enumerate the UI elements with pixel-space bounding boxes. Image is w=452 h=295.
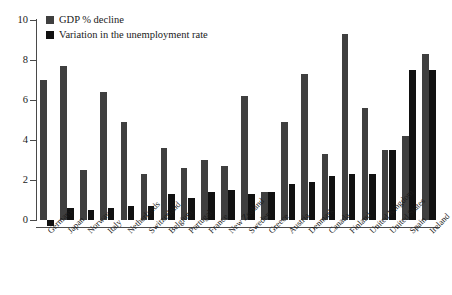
y-axis-tick-label: 4 — [2, 135, 28, 145]
legend-item-gdp: GDP % decline — [46, 13, 208, 26]
y-axis-tick-label: 6 — [2, 95, 28, 105]
bar-gdp-decline — [80, 170, 87, 220]
plot-area — [37, 20, 439, 220]
x-axis-labels: GermanyJapanNorwayItalyNetherlandsSwitze… — [37, 229, 439, 295]
bar-group — [40, 20, 54, 220]
chart-legend: GDP % decline Variation in the unemploym… — [46, 13, 208, 43]
bar-gdp-decline — [422, 54, 429, 220]
bar-unemployment-variation — [429, 70, 436, 220]
bar-gdp-decline — [342, 34, 349, 220]
bar-group — [362, 20, 376, 220]
bar-group — [181, 20, 195, 220]
bar-group — [281, 20, 295, 220]
legend-swatch-icon-unemployment — [46, 31, 54, 39]
legend-swatch-icon-gdp — [46, 16, 54, 24]
bar-group — [301, 20, 315, 220]
bar-gdp-decline — [241, 96, 248, 220]
bar-gdp-decline — [100, 92, 107, 220]
bar-group — [322, 20, 336, 220]
bar-gdp-decline — [121, 122, 128, 220]
y-axis-labels: 1086420 — [0, 0, 28, 295]
bar-gdp-decline — [40, 80, 47, 220]
y-axis-tick-label: 8 — [2, 55, 28, 65]
bar-unemployment-variation — [309, 182, 316, 220]
bar-gdp-decline — [362, 108, 369, 220]
legend-item-unemployment: Variation in the unemployment rate — [46, 28, 208, 41]
y-axis-tick-label: 10 — [2, 15, 28, 25]
bar-group — [342, 20, 356, 220]
bar-group — [201, 20, 215, 220]
bar-gdp-decline — [281, 122, 288, 220]
legend-label-unemployment: Variation in the unemployment rate — [59, 29, 208, 40]
bar-group — [221, 20, 235, 220]
bar-unemployment-variation — [228, 190, 235, 220]
bar-group — [100, 20, 114, 220]
bar-gdp-decline — [60, 66, 67, 220]
bar-group — [382, 20, 396, 220]
bar-group — [60, 20, 74, 220]
bar-gdp-decline — [301, 74, 308, 220]
legend-label-gdp: GDP % decline — [59, 14, 124, 25]
bar-unemployment-variation — [349, 174, 356, 220]
bar-group — [141, 20, 155, 220]
y-axis-tick-label: 2 — [2, 175, 28, 185]
y-axis-tick-label: 0 — [2, 215, 28, 225]
bar-unemployment-variation — [128, 206, 135, 220]
bar-group — [422, 20, 436, 220]
bar-group — [161, 20, 175, 220]
bar-group — [121, 20, 135, 220]
bar-group — [80, 20, 94, 220]
bar-group — [241, 20, 255, 220]
bar-unemployment-variation — [289, 184, 296, 220]
bar-group — [261, 20, 275, 220]
